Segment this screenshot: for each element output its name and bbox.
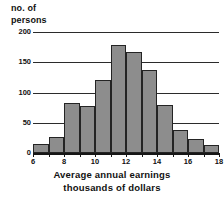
x-tick-15 [173, 153, 174, 157]
bar [49, 137, 65, 153]
x-tick-7 [49, 153, 50, 157]
histogram-figure: no. of persons 050100150200 681012141618… [0, 0, 224, 197]
x-tick-label-8: 8 [54, 157, 74, 166]
y-tick-label-0: 0 [5, 149, 31, 157]
x-tick-label-10: 10 [85, 157, 105, 166]
bar [126, 52, 142, 153]
bar [95, 80, 111, 153]
x-tick-label-6: 6 [23, 157, 43, 166]
y-tick-label-100: 100 [5, 89, 31, 97]
y-tick-label-150: 150 [5, 58, 31, 66]
bar [111, 45, 127, 153]
x-axis-title-line-2: thousands of dollars [0, 181, 224, 194]
x-tick-13 [142, 153, 143, 157]
bar [33, 144, 49, 153]
x-tick-11 [111, 153, 112, 157]
bar [157, 105, 173, 153]
bar [173, 130, 189, 153]
bar [64, 103, 80, 153]
gridline-200 [33, 32, 219, 33]
y-tick-label-200: 200 [5, 28, 31, 36]
x-tick-9 [80, 153, 81, 157]
x-axis-title: Average annual earnings thousands of dol… [0, 168, 224, 194]
x-tick-label-12: 12 [116, 157, 136, 166]
bar [204, 145, 220, 153]
y-tick-label-50: 50 [5, 119, 31, 127]
plot-area [33, 32, 219, 153]
x-tick-label-18: 18 [209, 157, 224, 166]
x-tick-label-16: 16 [178, 157, 198, 166]
x-tick-label-14: 14 [147, 157, 167, 166]
bar [80, 106, 96, 153]
bar [142, 70, 158, 153]
bar [188, 139, 204, 153]
x-tick-17 [204, 153, 205, 157]
x-axis-title-line-1: Average annual earnings [0, 168, 224, 181]
